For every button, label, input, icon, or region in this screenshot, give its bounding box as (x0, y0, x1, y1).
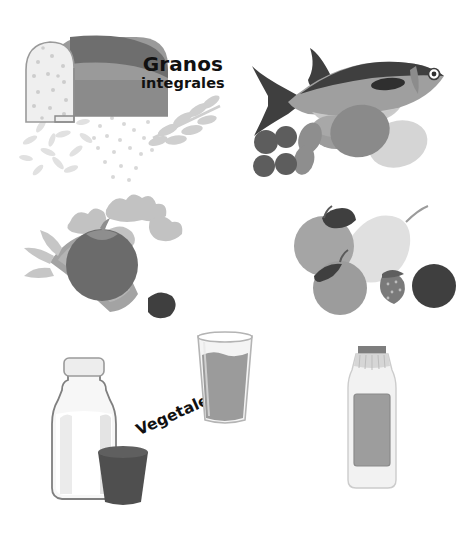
grains-illustration (8, 18, 223, 178)
nuts-icon (253, 126, 297, 177)
group-protein: Proteína saludable (248, 14, 463, 174)
group-grains: Granos integrales (8, 18, 223, 178)
vegetables-illustration (10, 190, 220, 325)
water-illustration (185, 328, 265, 428)
dairy-illustration (38, 352, 148, 512)
water-glass-icon (198, 332, 252, 423)
strawberry-icon (380, 270, 405, 304)
group-vegetables: Vegetales (10, 190, 220, 325)
grains-label-line1: Granos (141, 54, 225, 75)
bottle-cap-icon (64, 358, 104, 376)
small-vegetable-icon (148, 292, 176, 318)
crumb-dots-icon (92, 112, 154, 182)
yogurt-cup-icon (98, 446, 148, 505)
group-oils: Aceites saludables (330, 340, 420, 500)
oil-bottle-label-plate (354, 394, 390, 466)
oils-illustration (330, 340, 420, 500)
scattered-grains-icon (19, 118, 94, 177)
grains-label: Granos integrales (141, 54, 225, 91)
protein-illustration (248, 14, 463, 174)
grains-label-line2: integrales (141, 76, 225, 91)
group-water: Agua (185, 328, 265, 428)
fruits-illustration (288, 200, 463, 310)
food-groups-illustration: Granos integrales (0, 0, 471, 536)
oil-bottle-icon (348, 346, 396, 488)
berry-icon (412, 264, 456, 308)
group-dairy: Lácteos (38, 352, 148, 512)
group-fruits: Frutas (288, 200, 463, 310)
